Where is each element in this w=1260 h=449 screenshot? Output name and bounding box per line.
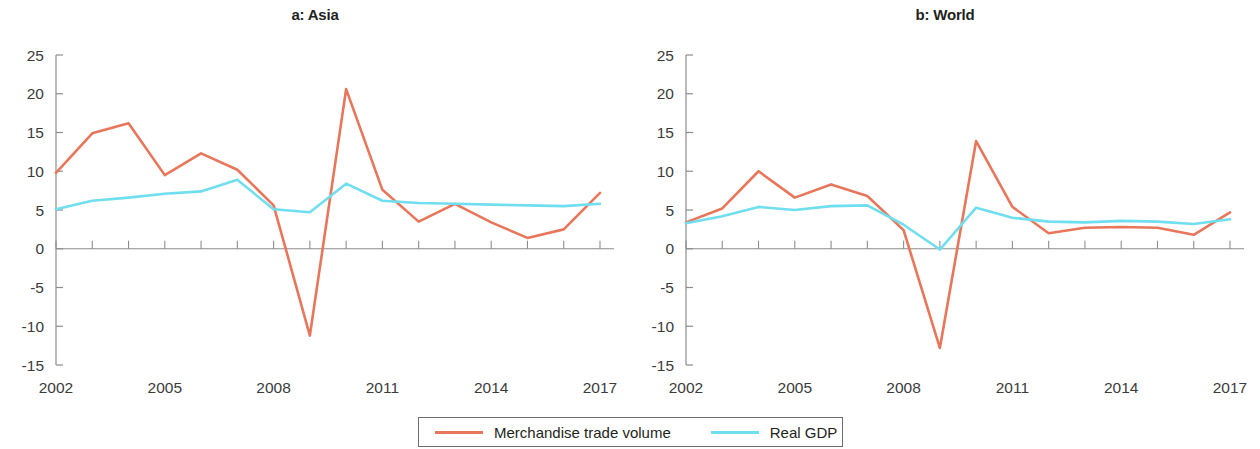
x-axis-tick-label: 2014 [474, 379, 509, 396]
x-axis-tick-label: 2011 [366, 379, 399, 396]
y-axis-tick-label: 25 [27, 47, 44, 64]
legend-label-merchandise-trade-volume: Merchandise trade volume [494, 424, 671, 441]
x-axis-tick-label: 2008 [886, 379, 920, 396]
y-axis-tick-label: 0 [665, 240, 674, 257]
y-axis-tick-label: 20 [27, 85, 45, 102]
x-axis-tick-label: 2002 [39, 379, 73, 396]
legend-label-real-gdp: Real GDP [770, 424, 838, 441]
y-axis-tick-label: 20 [657, 85, 675, 102]
chart-panel-asia: a: Asia 2520151050-5-10-1520022005200820… [0, 0, 630, 410]
legend-entry-real-gdp: Real GDP [711, 424, 838, 441]
y-axis-tick-label: -10 [652, 318, 675, 335]
y-axis-tick-label: 15 [657, 124, 674, 141]
y-axis-tick-label: -10 [22, 318, 45, 335]
x-axis-tick-label: 2002 [669, 379, 703, 396]
y-axis-tick-label: 15 [27, 124, 44, 141]
legend-color-swatch-line-icon [711, 431, 759, 434]
x-axis-tick-label: 2014 [1104, 379, 1139, 396]
y-axis-tick-label: 5 [35, 202, 44, 219]
x-axis-tick-label: 2017 [1213, 379, 1247, 396]
plot-area-asia: 2520151050-5-10-152002200520082011201420… [0, 0, 630, 410]
y-axis-tick-label: 10 [27, 163, 45, 180]
y-axis-tick-label: 10 [657, 163, 675, 180]
x-axis-tick-label: 2011 [996, 379, 1029, 396]
legend-color-swatch-line-icon [435, 431, 483, 434]
x-axis-tick-label: 2005 [148, 379, 182, 396]
y-axis-tick-label: -15 [652, 357, 674, 374]
y-axis-tick-label: 0 [35, 240, 44, 257]
x-axis-tick-label: 2005 [778, 379, 812, 396]
x-axis-tick-label: 2017 [583, 379, 617, 396]
y-axis-tick-label: -5 [30, 279, 44, 296]
figure-trade-and-gdp-growth: a: Asia 2520151050-5-10-1520022005200820… [0, 0, 1260, 449]
chart-legend: Merchandise trade volume Real GDP [418, 417, 843, 447]
series-line-merchandise-trade-volume [686, 141, 1230, 348]
plot-area-world: 2520151050-5-10-152002200520082011201420… [630, 0, 1260, 410]
series-line-merchandise-trade-volume [56, 89, 600, 335]
legend-entry-merchandise-trade-volume: Merchandise trade volume [435, 424, 671, 441]
y-axis-tick-label: 25 [657, 47, 674, 64]
x-axis-tick-label: 2008 [256, 379, 290, 396]
y-axis-tick-label: -5 [660, 279, 674, 296]
y-axis-tick-label: 5 [665, 202, 674, 219]
y-axis-tick-label: -15 [22, 357, 44, 374]
chart-panel-world: b: World 2520151050-5-10-152002200520082… [630, 0, 1260, 410]
